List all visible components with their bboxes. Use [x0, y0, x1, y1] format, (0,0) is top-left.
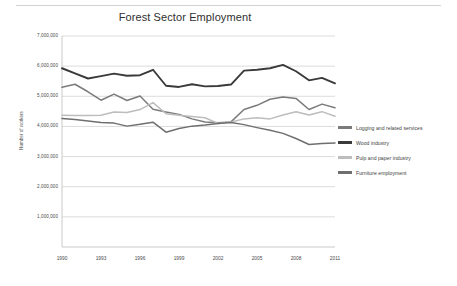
legend-item[interactable]: Logging and related services	[338, 120, 456, 135]
legend-swatch-icon	[338, 126, 352, 128]
x-tick-label: 1996	[120, 256, 160, 261]
legend-item-label: Wood industry	[356, 140, 389, 146]
legend-swatch-icon	[338, 156, 352, 158]
x-tick-label: 1990	[42, 256, 82, 261]
legend-item-label: Logging and related services	[356, 125, 423, 131]
legend-swatch-icon	[338, 141, 352, 144]
x-tick-label: 1993	[81, 256, 121, 261]
chart-legend: Logging and related servicesWood industr…	[338, 120, 456, 180]
x-tick-label: 2008	[276, 256, 316, 261]
x-tick-label: 2011	[315, 256, 355, 261]
legend-item[interactable]: Wood industry	[338, 135, 456, 150]
legend-item-label: Furniture employment	[356, 170, 407, 176]
chart-figure: Forest Sector Employment Number of worke…	[0, 0, 457, 286]
x-tick-label: 1999	[159, 256, 199, 261]
legend-item-label: Pulp and paper industry	[356, 155, 411, 161]
legend-swatch-icon	[338, 171, 352, 173]
legend-item[interactable]: Furniture employment	[338, 165, 456, 180]
legend-item[interactable]: Pulp and paper industry	[338, 150, 456, 165]
x-tick-label: 2005	[237, 256, 277, 261]
x-tick-label: 2002	[198, 256, 238, 261]
